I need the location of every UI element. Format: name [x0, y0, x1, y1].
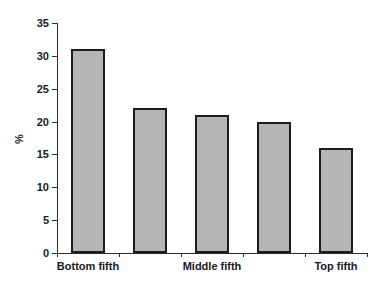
y-tick-label: 5 [43, 214, 49, 226]
x-tick-label: Bottom fifth [57, 260, 119, 272]
x-tick-label: Middle fifth [183, 260, 242, 272]
x-tick-mark [119, 253, 120, 257]
x-tick-mark [243, 253, 244, 257]
x-tick-label: Top fifth [314, 260, 357, 272]
bar [71, 49, 105, 253]
bar-chart: % 05101520253035 Bottom fifthMiddle fift… [0, 0, 385, 293]
y-tick-mark [52, 122, 57, 123]
bar [195, 115, 229, 253]
y-tick-mark [52, 56, 57, 57]
y-tick-mark [52, 23, 57, 24]
y-tick-mark [52, 220, 57, 221]
bar [319, 148, 353, 253]
y-axis-title: % [13, 124, 25, 154]
y-tick-label: 30 [37, 50, 49, 62]
y-tick-label: 20 [37, 116, 49, 128]
x-tick-mark [305, 253, 306, 257]
y-tick-mark [52, 89, 57, 90]
y-tick-label: 0 [43, 247, 49, 259]
bar [133, 108, 167, 253]
x-axis-line [57, 253, 367, 254]
y-tick-mark [52, 187, 57, 188]
x-tick-mark [367, 253, 368, 257]
y-axis-line [57, 23, 58, 253]
y-tick-label: 10 [37, 181, 49, 193]
x-tick-mark [181, 253, 182, 257]
y-tick-mark [52, 154, 57, 155]
bar [257, 122, 291, 253]
x-tick-mark [57, 253, 58, 257]
y-tick-label: 15 [37, 148, 49, 160]
plot-area: 05101520253035 Bottom fifthMiddle fifthT… [57, 18, 367, 253]
y-tick-label: 35 [37, 17, 49, 29]
y-tick-label: 25 [37, 83, 49, 95]
